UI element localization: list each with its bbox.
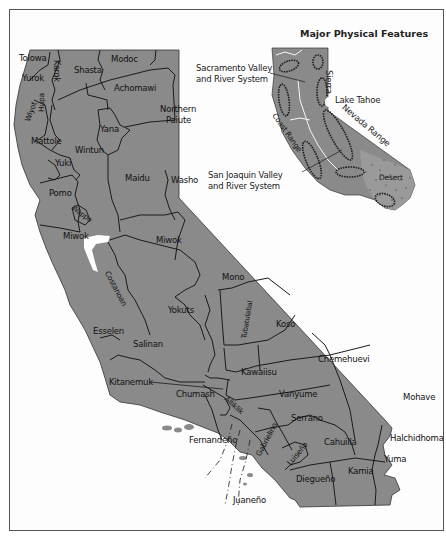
label-sierra: Sierra — [325, 70, 334, 94]
sacramento-line2: and River System — [196, 75, 272, 84]
label-northern: Northern — [160, 105, 196, 114]
label-paiute: Paiute — [166, 116, 191, 125]
label-washo: Washo — [171, 176, 198, 185]
label-halchidhoma: Halchidhoma — [390, 434, 444, 443]
label-miwok: Miwok — [156, 236, 182, 245]
label-lake-tahoe: Lake Tahoe — [335, 96, 380, 105]
label-shasta: Shasta — [74, 66, 102, 75]
label-hupa: Hupa — [38, 93, 46, 112]
inset-lake-tahoe — [325, 97, 331, 107]
label-salinan: Salinan — [133, 340, 163, 349]
label-modoc: Modoc — [111, 55, 138, 64]
label-wintun: Wintun — [75, 146, 104, 155]
label-yuma: Yuma — [384, 455, 406, 464]
label-tolowa: Tolowa — [19, 54, 46, 63]
label-yurok: Yurok — [22, 74, 44, 83]
label-pomo: Pomo — [49, 189, 72, 198]
label-chemehuevi: Chemehuevi — [318, 355, 369, 364]
label-koso: Koso — [276, 320, 295, 329]
inset-physical-map — [270, 48, 415, 210]
label-yokuts: Yokuts — [168, 306, 194, 315]
sacramento-line1: Sacramento Valley — [196, 64, 272, 73]
label-achomawi: Achomawi — [114, 84, 156, 93]
label-kamia: Kamia — [348, 467, 373, 476]
label-sacramento-valley: Sacramento Valley and River System — [196, 64, 272, 83]
label-san-joaquin-valley: San Joaquin Valley and River System — [208, 171, 283, 190]
label-juaneno: Juaneño — [233, 496, 266, 505]
label-mattole: Mattole — [31, 137, 62, 146]
label-yuki: Yuki — [55, 159, 71, 168]
label-serrano: Serrano — [291, 414, 323, 423]
label-yana: Yana — [100, 125, 119, 134]
label-desert: Desert — [379, 174, 403, 182]
label-mono: Mono — [222, 273, 244, 282]
label-maidu: Maidu — [125, 174, 150, 183]
label-vanyume: Vanyume — [279, 390, 317, 399]
label-chumash: Chumash — [176, 390, 215, 399]
label-kitanemuk: Kitanemuk — [109, 378, 153, 387]
inset-title: Major Physical Features — [300, 28, 428, 39]
sanjoaquin-line2: and River System — [208, 182, 283, 191]
label-miwok-coast: Miwok — [63, 232, 89, 241]
label-kawaiisu: Kawaiisu — [241, 368, 277, 377]
label-fernandeno: Fernandeño — [189, 436, 237, 445]
label-cahuilla: Cahuilla — [324, 438, 357, 447]
label-mohave: Mohave — [403, 393, 435, 402]
label-diegueno: Diegueño — [296, 475, 335, 484]
sanjoaquin-line1: San Joaquin Valley — [208, 171, 283, 180]
label-karok: Karok — [52, 60, 60, 82]
label-esselen: Esselen — [93, 327, 124, 336]
